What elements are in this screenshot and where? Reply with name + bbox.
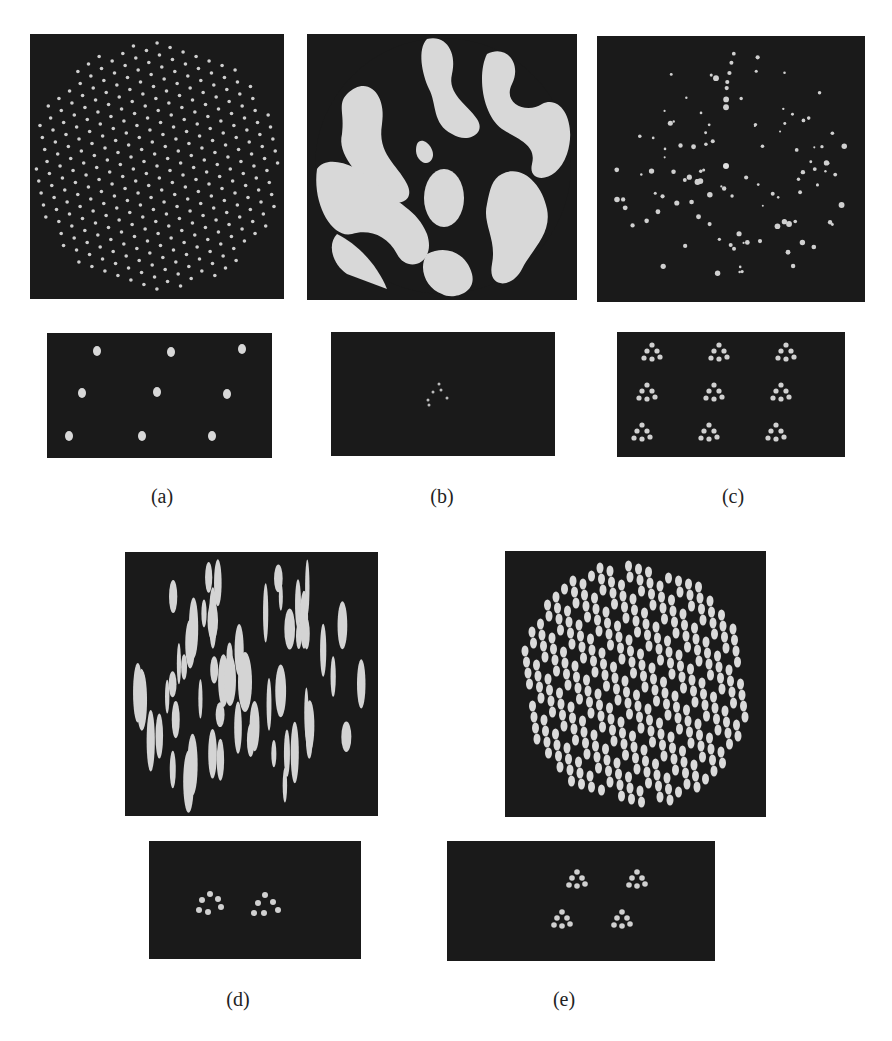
panel-e-hologram (505, 551, 766, 817)
panel-label-c: (c) (703, 485, 763, 508)
panel-b-reconstruction (331, 332, 555, 456)
panel-label-d: (d) (208, 988, 268, 1011)
panel-a-hologram (30, 34, 284, 299)
panel-label-e: (e) (534, 988, 594, 1011)
panel-e-reconstruction (447, 841, 715, 961)
panel-a-reconstruction (47, 333, 272, 458)
panel-label-a: (a) (132, 485, 192, 508)
panel-b-hologram (307, 34, 577, 300)
panel-c-hologram (597, 36, 865, 302)
panel-d-reconstruction (149, 841, 361, 959)
panel-d-hologram (125, 552, 378, 816)
panel-c-reconstruction (617, 332, 845, 457)
panel-label-b: (b) (412, 485, 472, 508)
